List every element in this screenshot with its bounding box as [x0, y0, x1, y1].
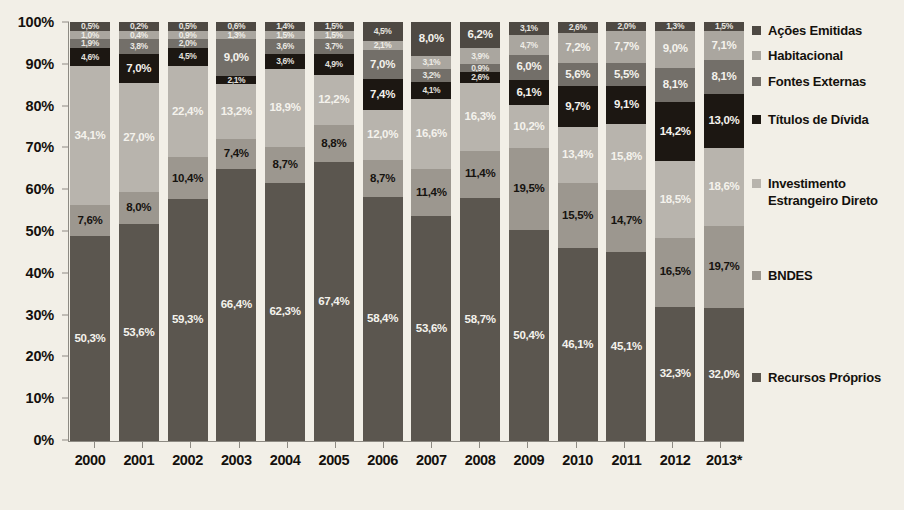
- bar-segment[interactable]: 45,1%: [606, 252, 646, 441]
- legend-item[interactable]: Habitacional: [752, 48, 843, 65]
- bar-segment[interactable]: 2,6%: [460, 72, 500, 83]
- bar-segment[interactable]: 1,3%: [216, 31, 256, 40]
- bar-segment[interactable]: 9,1%: [606, 86, 646, 124]
- bar-segment[interactable]: 7,6%: [70, 205, 110, 236]
- bar-column[interactable]: 0,5%1,0%1,9%4,6%34,1%7,6%50,3%: [70, 22, 110, 441]
- bar-segment[interactable]: 1,5%: [265, 31, 305, 40]
- bar-segment[interactable]: 8,1%: [655, 68, 695, 102]
- bar-segment[interactable]: 3,1%: [509, 22, 549, 35]
- bar-segment[interactable]: 3,6%: [265, 39, 305, 54]
- bar-segment[interactable]: 1,5%: [704, 22, 744, 31]
- bar-segment[interactable]: 8,0%: [119, 192, 159, 224]
- bar-segment[interactable]: 10,2%: [509, 105, 549, 148]
- bar-segment[interactable]: 15,8%: [606, 124, 646, 190]
- bar-segment[interactable]: 16,5%: [655, 238, 695, 307]
- bar-segment[interactable]: 18,5%: [655, 161, 695, 238]
- bar-segment[interactable]: 16,6%: [411, 99, 451, 169]
- bar-segment[interactable]: 34,1%: [70, 66, 110, 205]
- bar-column[interactable]: 1,5%7,1%8,1%13,0%18,6%19,7%32,0%: [704, 22, 744, 441]
- bar-segment[interactable]: 7,4%: [216, 139, 256, 169]
- legend-item[interactable]: BNDES: [752, 268, 813, 285]
- bar-segment[interactable]: 32,3%: [655, 307, 695, 441]
- bar-segment[interactable]: 11,4%: [411, 169, 451, 217]
- legend-item[interactable]: Ações Emitidas: [752, 23, 862, 40]
- bar-segment[interactable]: 2,1%: [216, 76, 256, 85]
- bar-segment[interactable]: 19,5%: [509, 148, 549, 230]
- bar-segment[interactable]: 32,0%: [704, 308, 744, 441]
- bar-column[interactable]: 1,4%1,5%3,6%3,6%18,9%8,7%62,3%: [265, 22, 305, 441]
- legend-item[interactable]: Recursos Próprios: [752, 370, 881, 387]
- bar-segment[interactable]: 22,4%: [168, 66, 208, 157]
- bar-segment[interactable]: 3,2%: [411, 69, 451, 82]
- bar-segment[interactable]: 18,6%: [704, 148, 744, 226]
- bar-segment[interactable]: 4,7%: [509, 35, 549, 55]
- bar-segment[interactable]: 5,6%: [558, 63, 598, 86]
- bar-segment[interactable]: 11,4%: [460, 151, 500, 198]
- bar-segment[interactable]: 4,1%: [411, 82, 451, 99]
- bar-column[interactable]: 0,2%0,4%3,8%7,0%27,0%8,0%53,6%: [119, 22, 159, 441]
- bar-column[interactable]: 2,6%7,2%5,6%9,7%13,4%15,5%46,1%: [558, 22, 598, 441]
- bar-segment[interactable]: 19,7%: [704, 226, 744, 308]
- bar-segment[interactable]: 13,2%: [216, 84, 256, 138]
- bar-segment[interactable]: 5,5%: [606, 63, 646, 86]
- bar-column[interactable]: 8,0%3,1%3,2%4,1%16,6%11,4%53,6%: [411, 22, 451, 441]
- bar-segment[interactable]: 7,0%: [363, 50, 403, 79]
- bar-segment[interactable]: 8,0%: [411, 22, 451, 56]
- bar-segment[interactable]: 9,0%: [216, 39, 256, 76]
- bar-segment[interactable]: 14,2%: [655, 102, 695, 161]
- bar-segment[interactable]: 3,8%: [119, 39, 159, 54]
- legend-item[interactable]: Fontes Externas: [752, 74, 866, 91]
- bar-segment[interactable]: 8,1%: [704, 60, 744, 94]
- bar-segment[interactable]: 7,4%: [363, 79, 403, 110]
- bar-segment[interactable]: 12,0%: [363, 110, 403, 160]
- bar-segment[interactable]: 9,7%: [558, 86, 598, 127]
- bar-column[interactable]: 0,5%0,9%2,0%4,5%22,4%10,4%59,3%: [168, 22, 208, 441]
- bar-segment[interactable]: 8,7%: [265, 147, 305, 183]
- bar-segment[interactable]: 7,1%: [704, 31, 744, 61]
- bar-segment[interactable]: 12,2%: [314, 75, 354, 126]
- bar-segment[interactable]: 3,7%: [314, 39, 354, 54]
- bar-column[interactable]: 4,5%2,1%7,0%7,4%12,0%8,7%58,4%: [363, 22, 403, 441]
- bar-segment[interactable]: 50,3%: [70, 236, 110, 441]
- bar-segment[interactable]: 2,0%: [168, 39, 208, 48]
- bar-segment[interactable]: 3,1%: [411, 56, 451, 69]
- bar-segment[interactable]: 4,9%: [314, 54, 354, 74]
- bar-segment[interactable]: 50,4%: [509, 230, 549, 441]
- bar-column[interactable]: 3,1%4,7%6,0%6,1%10,2%19,5%50,4%: [509, 22, 549, 441]
- bar-segment[interactable]: 13,0%: [704, 94, 744, 148]
- bar-column[interactable]: 2,0%7,7%5,5%9,1%15,8%14,7%45,1%: [606, 22, 646, 441]
- bar-segment[interactable]: 62,3%: [265, 183, 305, 441]
- bar-segment[interactable]: 53,6%: [119, 224, 159, 441]
- bar-segment[interactable]: 7,0%: [119, 54, 159, 82]
- bar-segment[interactable]: 0,9%: [460, 64, 500, 73]
- bar-segment[interactable]: 1,5%: [314, 31, 354, 40]
- bar-segment[interactable]: 13,4%: [558, 127, 598, 183]
- bar-segment[interactable]: 3,6%: [265, 54, 305, 69]
- bar-segment[interactable]: 14,7%: [606, 190, 646, 252]
- bar-segment[interactable]: 6,1%: [509, 80, 549, 106]
- bar-column[interactable]: 6,2%3,9%0,9%2,6%16,3%11,4%58,7%: [460, 22, 500, 441]
- bar-segment[interactable]: 10,4%: [168, 157, 208, 199]
- bar-segment[interactable]: 58,4%: [363, 197, 403, 441]
- bar-column[interactable]: 0,6%1,3%9,0%2,1%13,2%7,4%66,4%: [216, 22, 256, 441]
- legend-item[interactable]: Investimento Estrangeiro Direto: [752, 176, 902, 209]
- bar-segment[interactable]: 4,6%: [70, 48, 110, 67]
- bar-segment[interactable]: 15,5%: [558, 183, 598, 248]
- bar-segment[interactable]: 8,8%: [314, 125, 354, 161]
- bar-segment[interactable]: 27,0%: [119, 83, 159, 192]
- bar-segment[interactable]: 4,5%: [363, 22, 403, 41]
- bar-column[interactable]: 1,3%9,0%8,1%14,2%18,5%16,5%32,3%: [655, 22, 695, 441]
- bar-segment[interactable]: 16,3%: [460, 83, 500, 151]
- bar-segment[interactable]: 3,9%: [460, 48, 500, 64]
- bar-segment[interactable]: 59,3%: [168, 199, 208, 441]
- bar-segment[interactable]: 4,5%: [168, 48, 208, 66]
- bar-segment[interactable]: 2,0%: [606, 22, 646, 31]
- bar-segment[interactable]: 66,4%: [216, 169, 256, 441]
- legend-item[interactable]: Títulos de Dívida: [752, 112, 869, 129]
- bar-segment[interactable]: 6,0%: [509, 55, 549, 80]
- bar-segment[interactable]: 8,7%: [363, 160, 403, 196]
- bar-segment[interactable]: 1,3%: [655, 22, 695, 31]
- bar-segment[interactable]: 6,2%: [460, 22, 500, 48]
- bar-segment[interactable]: 0,4%: [119, 31, 159, 40]
- bar-segment[interactable]: 1,9%: [70, 39, 110, 48]
